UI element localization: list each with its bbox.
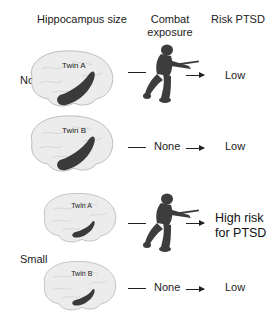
twin-label: Twin A	[62, 61, 86, 70]
risk-value: Low	[210, 140, 260, 152]
header-risk-ptsd: Risk PTSD	[208, 13, 268, 26]
combat-none: None	[154, 281, 180, 293]
risk-value: Low	[210, 281, 260, 293]
brain-normal-twin-a: Twin A	[22, 47, 118, 111]
twin-label: Twin B	[71, 270, 92, 278]
brain-small-twin-b: Twin B	[36, 258, 120, 314]
arrow-icon	[186, 75, 204, 76]
twin-label: Twin A	[71, 202, 92, 210]
risk-value: Low	[210, 69, 260, 81]
header-combat-line1: Combat	[140, 13, 200, 26]
brain-icon	[22, 47, 118, 111]
connector-line	[128, 147, 146, 148]
header-hippocampus-size: Hippocampus size	[32, 13, 132, 26]
risk-value-high: High risk for PTSD	[215, 211, 275, 241]
combat-none: None	[154, 140, 180, 152]
brain-icon	[36, 190, 120, 246]
header-combat-exposure: Combat exposure	[140, 13, 200, 39]
header-combat-line2: exposure	[140, 26, 200, 39]
brain-small-twin-a: Twin A	[36, 190, 120, 246]
brain-icon	[36, 258, 120, 314]
risk-high-line2: for PTSD	[215, 226, 275, 241]
risk-high-line1: High risk	[215, 211, 275, 226]
arrow-icon	[186, 148, 204, 149]
arrow-icon	[186, 223, 204, 224]
brain-icon	[22, 112, 118, 176]
connector-line	[128, 288, 146, 289]
arrow-icon	[186, 289, 204, 290]
brain-normal-twin-b: Twin B	[22, 112, 118, 176]
twin-label: Twin B	[62, 126, 86, 135]
